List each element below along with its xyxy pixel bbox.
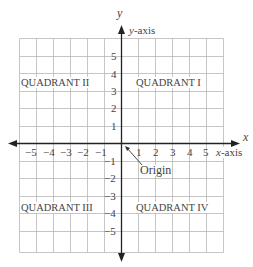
x-tick: 3 (170, 147, 176, 158)
x-tick: 2 (153, 147, 159, 158)
quadrant-iv-label: QUADRANT IV (135, 202, 209, 213)
x-tick: 1 (136, 147, 142, 158)
x-letter: x (243, 132, 248, 143)
x-tick: −5 (25, 147, 37, 158)
y-tick: 1 (111, 121, 117, 132)
y-tick: 3 (111, 86, 117, 97)
x-tick: −3 (60, 147, 72, 158)
y-letter: y (117, 8, 122, 19)
y-axis-down-arrow-icon (118, 253, 125, 262)
y-tick: 5 (111, 51, 117, 62)
x-tick: −4 (43, 147, 55, 158)
y-tick: −1 (104, 156, 116, 167)
y-tick: −2 (104, 173, 116, 184)
coordinate-plane (0, 0, 253, 267)
x-axis-label-rest: -axis (221, 146, 242, 158)
y-axis-label: y-axis (129, 25, 155, 36)
y-tick: 4 (111, 69, 117, 80)
y-tick: −4 (104, 208, 116, 219)
y-tick: 2 (111, 103, 117, 114)
x-axis-left-arrow-icon (8, 140, 17, 147)
quadrant-iii-label: QUADRANT III (20, 202, 94, 213)
y-tick: −3 (104, 191, 116, 202)
y-axis-label-rest: -axis (134, 24, 155, 36)
origin-label: Origin (140, 165, 171, 176)
x-tick: 4 (187, 147, 193, 158)
y-axis-up-arrow-icon (118, 25, 125, 34)
y-tick: −5 (104, 226, 116, 237)
quadrant-ii-label: QUADRANT II (20, 77, 90, 88)
x-axis-label: x-axis (216, 147, 242, 158)
x-tick: 5 (203, 147, 209, 158)
quadrant-i-label: QUADRANT I (135, 77, 202, 88)
x-tick: −2 (77, 147, 89, 158)
